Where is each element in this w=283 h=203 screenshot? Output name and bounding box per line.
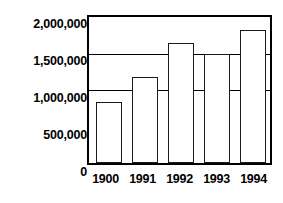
- x-axis-tick-label-1900: 1900: [87, 173, 124, 193]
- x-axis-tick-label-1993: 1993: [198, 173, 235, 193]
- y-axis-tick-label-1000000: 1,000,000: [33, 92, 87, 105]
- plot-inner: [89, 17, 270, 163]
- x-axis-labels: 1900 1991 1992 1993 1994: [87, 173, 272, 193]
- x-axis-tick-label-1994: 1994: [235, 173, 272, 193]
- x-axis-tick-label-1992: 1992: [161, 173, 198, 193]
- y-axis-tick-label-2000000: 2,000,000: [33, 18, 87, 31]
- y-axis-tick-label-0: 0: [80, 166, 87, 179]
- bar-1992: [168, 43, 194, 163]
- plot-area: [87, 15, 272, 165]
- bar-1993: [204, 54, 230, 164]
- bar-1900: [96, 102, 122, 163]
- bar-1991: [132, 77, 158, 163]
- y-axis-tick-label-500000: 500,000: [43, 129, 87, 142]
- y-axis-tick-label-1500000: 1,500,000: [33, 55, 87, 68]
- bar-1994: [240, 30, 266, 163]
- bar-chart: 2,000,000 1,500,000 1,000,000 500,000 0 …: [0, 0, 283, 203]
- x-axis-tick-label-1991: 1991: [124, 173, 161, 193]
